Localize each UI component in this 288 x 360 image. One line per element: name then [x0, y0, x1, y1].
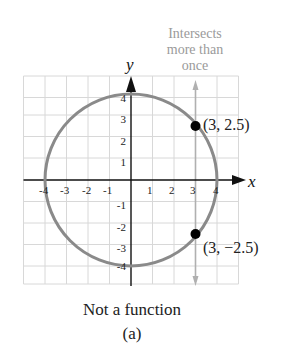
y-axis-arrow-icon [126, 76, 136, 92]
vertical-line-test [193, 80, 199, 286]
svg-text:Intersects: Intersects [168, 26, 222, 41]
point-lower [191, 229, 201, 239]
svg-text:1: 1 [147, 184, 153, 196]
svg-text:2: 2 [169, 184, 175, 196]
svg-text:once: once [182, 58, 208, 73]
figure-label: (a) [0, 324, 276, 344]
annotation: Intersects more than once [167, 26, 223, 73]
svg-text:more than: more than [167, 42, 223, 57]
svg-text:4: 4 [121, 92, 127, 104]
point-label-upper: (3, 2.5) [203, 116, 250, 134]
point-label-lower: (3, −2.5) [203, 239, 259, 257]
svg-text:3: 3 [121, 113, 127, 125]
svg-text:3: 3 [190, 184, 196, 196]
svg-text:-2: -2 [117, 221, 126, 233]
x-axis-label: x [247, 172, 256, 191]
arrow-up-icon [193, 80, 199, 90]
svg-text:-2: -2 [82, 184, 91, 196]
svg-text:2: 2 [121, 135, 127, 147]
svg-text:-1: -1 [103, 184, 112, 196]
svg-text:-4: -4 [39, 184, 49, 196]
svg-text:4: 4 [213, 184, 219, 196]
svg-text:-1: -1 [117, 199, 126, 211]
svg-text:-3: -3 [60, 184, 70, 196]
y-tick-labels: 4 3 2 1 -1 -2 -3 -4 [117, 92, 127, 272]
svg-text:-3: -3 [117, 242, 127, 254]
figure-caption: Not a function [0, 300, 276, 320]
svg-text:-4: -4 [117, 260, 127, 272]
y-axis-label: y [124, 55, 134, 74]
point-upper [191, 121, 201, 131]
svg-text:1: 1 [121, 156, 127, 168]
x-tick-labels: -4 -3 -2 -1 1 2 3 4 [39, 184, 219, 196]
